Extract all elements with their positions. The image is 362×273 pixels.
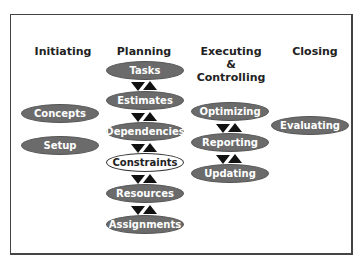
- node-updating: Updating: [191, 164, 269, 183]
- header-executing: Executing & Controlling: [195, 45, 267, 84]
- header-controlling-line: Controlling: [195, 71, 267, 84]
- node-resources: Resources: [106, 184, 184, 203]
- bidirectional-arrows-icon: [131, 174, 157, 184]
- node-estimates: Estimates: [106, 91, 184, 110]
- header-executing-amp: &: [195, 58, 267, 71]
- bidirectional-arrows-icon: [131, 81, 157, 91]
- node-dependencies: Dependencies: [106, 122, 184, 141]
- node-reporting: Reporting: [191, 133, 269, 152]
- bidirectional-arrows-icon: [216, 154, 242, 164]
- node-assignments: Assignments: [106, 215, 184, 234]
- bidirectional-arrows-icon: [131, 112, 157, 122]
- bidirectional-arrows-icon: [216, 123, 242, 133]
- node-optimizing: Optimizing: [191, 102, 269, 121]
- node-concepts: Concepts: [21, 104, 99, 123]
- node-tasks: Tasks: [106, 61, 184, 80]
- header-planning: Planning: [109, 45, 179, 58]
- bidirectional-arrows-icon: [131, 143, 157, 153]
- node-setup: Setup: [21, 136, 99, 155]
- header-closing: Closing: [285, 45, 345, 58]
- node-constraints: Constraints: [106, 153, 184, 172]
- header-initiating: Initiating: [28, 45, 98, 58]
- header-executing-line1: Executing: [195, 45, 267, 58]
- bidirectional-arrows-icon: [131, 205, 157, 215]
- node-evaluating: Evaluating: [271, 116, 349, 135]
